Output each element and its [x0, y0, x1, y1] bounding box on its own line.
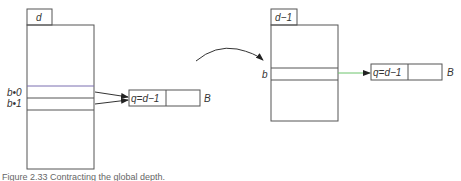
right-bucket-name: B [447, 67, 454, 78]
left-directory: d b•0 b•1 q=d−1 B [7, 9, 211, 169]
right-directory: d−1 b q=d−1 B [262, 9, 454, 121]
left-depth-label: d [36, 12, 42, 23]
right-bucket-label: q=d−1 [373, 67, 401, 78]
left-bucket-name: B [204, 93, 211, 104]
left-bucket-label: q=d−1 [131, 93, 159, 104]
left-directory-body [27, 25, 94, 169]
row-label-b0: b•0 [7, 87, 22, 98]
row-label-b1: b•1 [7, 98, 22, 109]
right-depth-label: d−1 [275, 12, 292, 23]
right-directory-body [271, 25, 338, 121]
pointer-arrow [95, 92, 128, 97]
figure-caption: Figure 2.33 Contracting the global depth… [2, 172, 165, 181]
diagram-canvas: d b•0 b•1 q=d−1 B d−1 b q=d−1 B Figure 2… [0, 0, 461, 181]
row-label-b: b [262, 69, 268, 80]
transition-arrow [196, 48, 263, 61]
pointer-arrow [95, 100, 128, 104]
